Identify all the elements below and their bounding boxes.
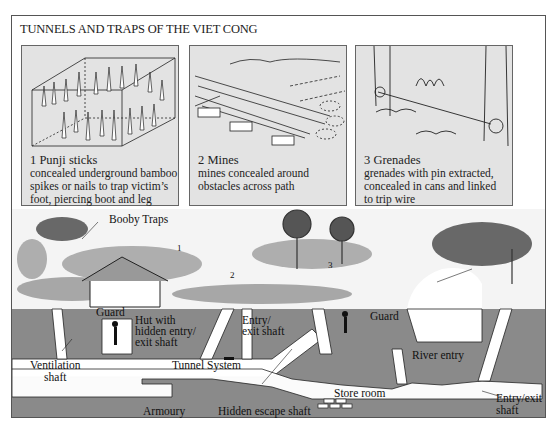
tunnel-cross-section: Booby Traps 1 2 3 Guard Hut withhidden e… — [12, 209, 545, 417]
panel-heading: 2 Mines — [198, 154, 309, 167]
panel-heading: 1 Punji sticks — [30, 154, 177, 167]
label-line: shaft — [30, 371, 80, 383]
tunnel-system-illustration — [12, 209, 545, 417]
caption-line: concealed underground bamboo — [30, 167, 177, 180]
caption-line: concealed in cans and linked — [364, 180, 496, 193]
diagram-title: TUNNELS AND TRAPS OF THE VIET CONG — [20, 22, 257, 37]
label-hidden-escape-shaft: Hidden escape shaft — [218, 405, 311, 417]
caption-line: spikes or nails to trap victim’s — [30, 180, 177, 193]
label-tunnel-system: Tunnel System — [172, 359, 241, 371]
label-line: exit shaft — [242, 326, 284, 337]
panel-mines: 2 Mines mines concealed around obstacles… — [189, 45, 347, 206]
label-hut-hidden-entry: Hut withhidden entry/exit shaft — [135, 315, 196, 348]
label-armoury: Armoury — [143, 405, 185, 417]
panel-caption: 2 Mines mines concealed around obstacles… — [198, 154, 309, 193]
label-tunnel-guard: Guard — [370, 310, 399, 322]
caption-line: grenades with pin extracted, — [364, 167, 496, 180]
panel-heading: 3 Grenades — [364, 154, 496, 167]
caption-line: obstacles across path — [198, 180, 309, 193]
panel-caption: 3 Grenades grenades with pin extracted, … — [364, 154, 496, 206]
label-river-entry: River entry — [412, 349, 464, 361]
caption-line: foot, piercing boot and leg — [30, 193, 177, 206]
mines-illustration — [190, 46, 348, 156]
label-booby-traps: Booby Traps — [109, 213, 168, 225]
label-line: Ventilation — [30, 359, 80, 371]
label-line: exit shaft — [135, 337, 196, 348]
label-line: Entry/exit — [496, 392, 542, 404]
label-ventilation-shaft: Ventilationshaft — [30, 359, 80, 383]
label-entry-exit-right: Entry/exitshaft — [496, 392, 542, 416]
panel-grenades: 3 Grenades grenades with pin extracted, … — [355, 45, 513, 206]
punji-sticks-illustration — [22, 46, 180, 156]
diagram-frame: TUNNELS AND TRAPS OF THE VIET CONG 1 Pun… — [11, 15, 546, 418]
label-line: shaft — [496, 404, 542, 416]
label-store-room: Store room — [334, 387, 385, 399]
label-trap-1: 1 — [177, 242, 182, 254]
label-trap-3: 3 — [328, 259, 333, 271]
label-trap-2: 2 — [230, 269, 235, 281]
label-guard-hut: Guard — [96, 306, 125, 318]
caption-line: to trip wire — [364, 193, 496, 206]
label-entry-exit-shaft: Entry/exit shaft — [242, 315, 284, 337]
caption-line: mines concealed around — [198, 167, 309, 180]
grenades-illustration — [356, 46, 514, 156]
panel-punji-sticks: 1 Punji sticks concealed underground bam… — [21, 45, 179, 206]
panel-caption: 1 Punji sticks concealed underground bam… — [30, 154, 177, 206]
